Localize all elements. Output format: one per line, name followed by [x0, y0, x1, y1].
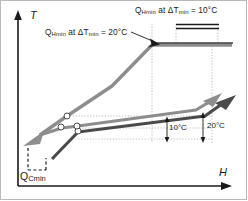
hot-utility-label-20c-suffix: = 20°C [99, 27, 128, 37]
pinch-gap-label-10c: 10°C [169, 124, 187, 132]
hot-utility-label-20c: QHmin at ΔTmin = 20°C [45, 28, 127, 38]
pinch-gap-marker-10c-arrow-down [165, 137, 170, 143]
leader-line-20c [131, 32, 160, 48]
y-axis-arrowhead [14, 10, 22, 20]
x-axis-arrowhead [221, 182, 232, 190]
pinch-gap-marker-20c-arrow-down [201, 137, 206, 143]
hot-utility-label-10c-midsub: min [179, 9, 189, 15]
hot-utility-label-20c-mid: at ΔT [66, 27, 89, 37]
cold-utility-bracket [28, 148, 46, 170]
hot-utility-label-10c: QHmin at ΔTmin = 10°C [135, 6, 217, 16]
pinch-gap-marker-20c [201, 112, 206, 143]
kink-markers [58, 113, 81, 134]
kink-marker-upper [64, 113, 70, 119]
hot-utility-bar-10c [176, 25, 219, 29]
hot-utility-label-20c-midsub: min [89, 31, 99, 37]
y-axis-label: T [30, 10, 37, 21]
hot-utility-label-10c-mid: at ΔT [156, 5, 179, 15]
kink-marker-middle-left [58, 124, 64, 130]
composite-curve-figure: T H QHmin at ΔTmin = 10°C QHmin at ΔTmin… [0, 0, 248, 201]
hot-utility-label-10c-suffix: = 10°C [189, 5, 218, 15]
pinch-gap-label-20c: 20°C [207, 122, 225, 130]
cold-utility-label: QCmin [20, 171, 46, 183]
cold-utility-label-qsub: Cmin [28, 174, 46, 183]
kink-marker-middle-right [74, 123, 80, 129]
cold-utility-label-q: Q [20, 170, 28, 182]
x-axis-label: H [219, 167, 227, 178]
hot-utility-label-10c-qsub: Hmin [142, 9, 156, 15]
hot-utility-label-20c-qsub: Hmin [52, 31, 66, 37]
